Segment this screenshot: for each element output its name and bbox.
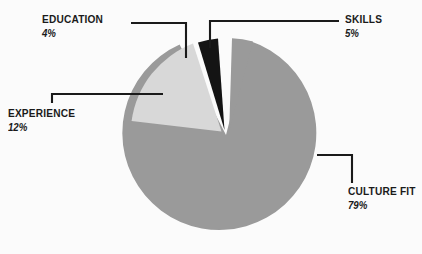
pie-label-skills-name: SKILLS <box>345 14 382 26</box>
pie-label-education-percent: 4% <box>42 28 103 39</box>
pie-label-culture-fit: CULTURE FIT 79% <box>348 186 422 211</box>
pie-label-experience-name: EXPERIENCE <box>8 108 75 120</box>
pie-label-skills: SKILLS 5% <box>345 14 385 39</box>
pie-label-experience-percent: 12% <box>8 122 75 133</box>
leader-line-culture-fit <box>317 155 352 183</box>
leader-line-skills <box>210 21 339 48</box>
pie-chart-figure: EDUCATION 4% SKILLS 5% EXPERIENCE 12% CU… <box>0 0 422 254</box>
pie-label-culture-fit-name: CULTURE FIT <box>348 186 416 198</box>
pie-label-culture-fit-percent: 79% <box>348 200 416 211</box>
pie-label-experience: EXPERIENCE 12% <box>8 108 81 133</box>
pie-label-education: EDUCATION 4% <box>42 14 108 39</box>
pie-label-education-name: EDUCATION <box>42 14 103 26</box>
pie-label-skills-percent: 5% <box>345 28 382 39</box>
